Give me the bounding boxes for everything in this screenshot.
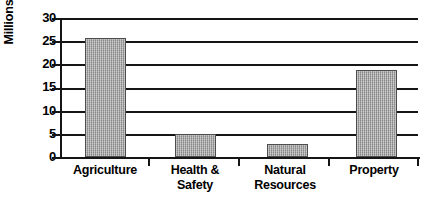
x-category-label-natural-resources: Natural Resources	[240, 163, 330, 193]
y-tick-mark-25	[52, 41, 61, 43]
x-axis-line	[60, 157, 420, 159]
y-tick-mark-10	[52, 111, 61, 113]
plot-area	[60, 18, 418, 157]
y-tick-label-10: 10	[20, 104, 56, 117]
y-tick-mark-30	[52, 18, 61, 20]
y-tick-label-15: 15	[20, 80, 56, 93]
bar-natural-resources	[267, 144, 308, 157]
x-category-label-property: Property	[329, 163, 419, 178]
y-axis-tick-labels: 30 25 20 15 10 5 0	[20, 0, 56, 170]
x-category-label-health-and-safety: Health & Safety	[150, 163, 240, 193]
x-category-label-natural-resources-line-2: Resources	[240, 178, 330, 193]
y-tick-mark-0	[52, 157, 61, 159]
bar-agriculture	[85, 38, 126, 157]
x-category-label-health-and-safety-line-2: Safety	[150, 178, 240, 193]
y-tick-label-25: 25	[20, 34, 56, 47]
bar-property	[356, 70, 397, 157]
gridline-30	[60, 18, 418, 20]
y-tick-mark-5	[52, 134, 61, 136]
x-category-label-property-line-1: Property	[329, 163, 419, 178]
bar-health-and-safety	[175, 134, 216, 157]
y-axis-title: Millions	[0, 0, 18, 70]
y-tick-mark-20	[52, 64, 61, 66]
x-category-label-agriculture-line-1: Agriculture	[60, 163, 150, 178]
x-category-label-health-and-safety-line-1: Health &	[150, 163, 240, 178]
y-tick-label-5: 5	[20, 127, 56, 140]
x-axis-category-labels: Agriculture Health & Safety Natural Reso…	[60, 163, 418, 215]
bar-chart-figure: Millions 30 25 20 15 10 5 0	[0, 0, 427, 218]
y-tick-mark-15	[52, 88, 61, 90]
x-category-label-natural-resources-line-1: Natural	[240, 163, 330, 178]
y-tick-label-0: 0	[20, 150, 56, 163]
y-tick-label-20: 20	[20, 57, 56, 70]
x-category-label-agriculture: Agriculture	[60, 163, 150, 178]
y-tick-label-30: 30	[20, 11, 56, 24]
